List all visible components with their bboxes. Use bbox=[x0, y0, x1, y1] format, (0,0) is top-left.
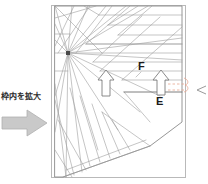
fan-node bbox=[66, 51, 70, 55]
label-e: E bbox=[156, 96, 163, 107]
upper-crossing-lines bbox=[55, 6, 152, 53]
technical-diagram bbox=[0, 0, 208, 184]
label-f: F bbox=[138, 61, 145, 72]
section-arrow-icon bbox=[197, 86, 206, 94]
arrow-right-up-icon bbox=[153, 70, 169, 95]
figure-page: 枠内を拡大 bbox=[0, 0, 208, 184]
lower-sweep-lines bbox=[55, 92, 150, 177]
middle-diagonal-bands bbox=[86, 16, 182, 80]
arrow-left-up-icon bbox=[98, 70, 114, 96]
f-leader-line bbox=[136, 72, 141, 77]
